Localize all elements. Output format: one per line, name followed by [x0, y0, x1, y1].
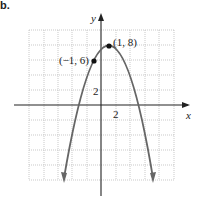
point-vertex	[106, 43, 111, 48]
x-tick-label: 2	[113, 109, 119, 120]
axes	[14, 13, 190, 196]
x-axis-label: x	[186, 110, 191, 121]
point-label-vertex: (1, 8)	[113, 37, 137, 48]
y-axis-label: y	[91, 13, 96, 24]
y-tick-label: 2	[93, 86, 99, 97]
point-neg1-6	[91, 58, 96, 63]
plot-area	[0, 0, 199, 206]
point-label-neg1-6: (−1, 6)	[59, 55, 89, 66]
